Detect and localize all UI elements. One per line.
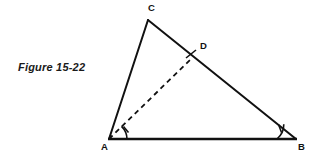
vertex-label-b: B [298, 142, 305, 152]
geometry-diagram [0, 0, 317, 157]
vertex-label-d: D [200, 41, 207, 51]
figure-container: Figure 15-22 C D A B [0, 0, 317, 157]
segment-ac [109, 20, 148, 139]
vertex-label-c: C [148, 3, 155, 13]
figure-caption: Figure 15-22 [18, 61, 85, 73]
vertex-label-a: A [101, 142, 108, 152]
